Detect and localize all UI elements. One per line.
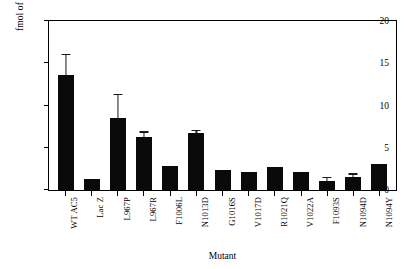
bar bbox=[136, 137, 152, 190]
bar-slot bbox=[183, 21, 209, 190]
error-bar-cap bbox=[322, 177, 331, 178]
error-bar-cap bbox=[62, 54, 71, 55]
x-label-slot: V1022A bbox=[288, 197, 314, 249]
error-bar bbox=[144, 133, 145, 137]
x-label-slot: N1013D bbox=[183, 197, 209, 249]
bar-slot bbox=[236, 21, 262, 190]
x-axis-tick bbox=[196, 191, 197, 196]
x-label-slot: G1016S bbox=[209, 197, 235, 249]
x-label-slot: WT AC5 bbox=[52, 197, 78, 249]
y-axis-title: fmol of Gsα bound bbox=[13, 0, 27, 54]
bar bbox=[371, 164, 387, 190]
plot-area: 05101520 bbox=[49, 21, 396, 190]
x-axis-tick-label: N1094Y bbox=[384, 197, 394, 227]
x-label-slot: N1094D bbox=[341, 197, 367, 249]
bar bbox=[84, 179, 100, 190]
x-axis-tick-labels: WT AC5Lac ZL967PL967RF1006LN1013DG1016SV… bbox=[48, 197, 397, 249]
bar bbox=[188, 133, 204, 190]
bar-slot bbox=[314, 21, 340, 190]
error-bar bbox=[352, 175, 353, 178]
bar bbox=[58, 75, 74, 190]
x-axis-tick bbox=[65, 191, 66, 196]
error-bar-cap bbox=[114, 94, 123, 95]
x-axis-tick bbox=[248, 191, 249, 196]
bar-slot bbox=[262, 21, 288, 190]
x-axis-tick bbox=[353, 191, 354, 196]
x-label-slot: N1094Y bbox=[367, 197, 393, 249]
bar bbox=[162, 166, 178, 191]
x-label-slot: L967P bbox=[104, 197, 130, 249]
bar bbox=[241, 172, 257, 190]
plot-frame: 05101520 bbox=[48, 20, 397, 191]
x-axis-tick bbox=[222, 191, 223, 196]
bar-slot bbox=[79, 21, 105, 190]
bar-slot bbox=[288, 21, 314, 190]
bar bbox=[267, 167, 283, 190]
bar-series bbox=[49, 21, 396, 190]
bar bbox=[110, 118, 126, 190]
error-bar bbox=[326, 178, 327, 181]
x-axis-tick bbox=[327, 191, 328, 196]
error-bar bbox=[118, 95, 119, 118]
error-bar bbox=[196, 131, 197, 134]
bar bbox=[293, 172, 309, 190]
x-axis-tick bbox=[301, 191, 302, 196]
x-axis-tick bbox=[170, 191, 171, 196]
x-label-slot: R1021Q bbox=[262, 197, 288, 249]
bar-slot bbox=[209, 21, 235, 190]
x-label-slot: F1006L bbox=[157, 197, 183, 249]
bar-slot bbox=[105, 21, 131, 190]
x-label-slot: F1093S bbox=[314, 197, 340, 249]
x-axis-tick bbox=[143, 191, 144, 196]
bar-slot bbox=[157, 21, 183, 190]
x-label-slot: Lac Z bbox=[78, 197, 104, 249]
bar-slot bbox=[340, 21, 366, 190]
bar-chart-figure: fmol of Gsα bound 05101520 WT AC5Lac ZL9… bbox=[0, 0, 415, 269]
bar bbox=[345, 177, 361, 190]
x-label-slot: V1017D bbox=[236, 197, 262, 249]
error-bar-cap bbox=[348, 173, 357, 174]
x-axis-tick bbox=[274, 191, 275, 196]
x-label-slot: L967R bbox=[131, 197, 157, 249]
bar bbox=[215, 170, 231, 190]
x-axis-tick bbox=[117, 191, 118, 196]
bar-slot bbox=[131, 21, 157, 190]
bar-slot bbox=[366, 21, 392, 190]
bar-slot bbox=[53, 21, 79, 190]
error-bar-cap bbox=[140, 131, 149, 132]
x-axis-tick bbox=[91, 191, 92, 196]
x-axis-tick bbox=[379, 191, 380, 196]
error-bar bbox=[65, 55, 66, 75]
error-bar-cap bbox=[192, 130, 201, 131]
bar bbox=[319, 181, 335, 190]
x-axis-title: Mutant bbox=[48, 251, 397, 261]
